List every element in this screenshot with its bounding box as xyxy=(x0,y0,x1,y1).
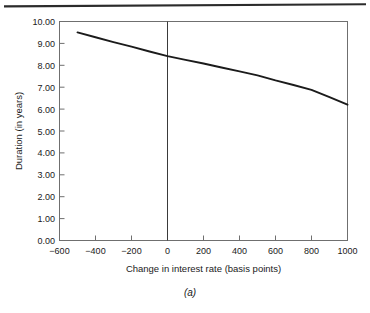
y-tick-label: 9.00 xyxy=(37,39,55,49)
duration-series-line xyxy=(78,32,348,104)
x-tick-label: 600 xyxy=(268,246,283,256)
y-tick-label: 5.00 xyxy=(37,127,55,137)
x-axis-title: Change in interest rate (basis points) xyxy=(126,263,281,274)
x-tick-label: −400 xyxy=(85,246,105,256)
x-tick-label: 800 xyxy=(304,246,319,256)
y-tick-label: 1.00 xyxy=(37,214,55,224)
figure-caption: (a) xyxy=(184,287,196,298)
x-tick-label: 0 xyxy=(165,246,170,256)
figure-container: 0.00 1.00 2.00 3.00 4.00 5.00 6.00 7.00 … xyxy=(0,0,370,313)
x-tick-label: −200 xyxy=(121,246,141,256)
x-tick-labels: −600 −400 −200 0 200 400 600 800 1000 xyxy=(49,246,357,256)
y-tick-label: 3.00 xyxy=(37,170,55,180)
y-tick-label: 4.00 xyxy=(37,148,55,158)
x-tick-label: 1000 xyxy=(337,246,357,256)
y-tick-label: 10.00 xyxy=(32,17,55,27)
x-tick-label: 400 xyxy=(232,246,247,256)
y-tick-label: 0.00 xyxy=(37,236,55,246)
y-tick-label: 8.00 xyxy=(37,61,55,71)
y-tick-labels: 0.00 1.00 2.00 3.00 4.00 5.00 6.00 7.00 … xyxy=(32,17,55,246)
y-tick-label: 2.00 xyxy=(37,192,55,202)
y-tick-label: 7.00 xyxy=(37,83,55,93)
x-tick-label: 200 xyxy=(196,246,211,256)
y-axis-ticks xyxy=(60,22,65,241)
x-axis-ticks xyxy=(60,236,348,241)
y-tick-label: 6.00 xyxy=(37,105,55,115)
y-axis-title: Duration (in years) xyxy=(13,92,24,170)
plot-frame xyxy=(60,22,348,241)
duration-chart: 0.00 1.00 2.00 3.00 4.00 5.00 6.00 7.00 … xyxy=(0,0,370,313)
x-tick-label: −600 xyxy=(49,246,69,256)
